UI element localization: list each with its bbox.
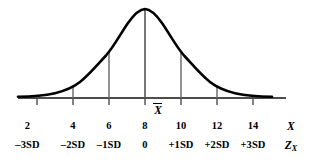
x-label-10: 10	[163, 120, 199, 132]
z-axis-name: ZX	[271, 139, 311, 153]
x-axis-name: X	[271, 120, 311, 132]
x-label-2: 2	[0, 120, 55, 132]
z-label-zero: 0	[127, 139, 163, 153]
z-score-label-row: –3SD –2SD –1SD 0 +1SD +2SD +3SD ZX	[0, 139, 316, 153]
z-label-pos1sd: +1SD	[163, 139, 199, 153]
sd-marker-group	[73, 9, 217, 98]
normal-distribution-figure: X 2 4 6 8 10 12 14 X –3SD –2SD –1SD 0 +1…	[0, 0, 316, 163]
x-label-14: 14	[235, 120, 271, 132]
mean-symbol-text: X	[154, 104, 162, 117]
x-label-6: 6	[91, 120, 127, 132]
z-axis-name-subscript: X	[292, 144, 297, 153]
z-label-pos3sd: +3SD	[235, 139, 271, 153]
x-label-12: 12	[199, 120, 235, 132]
z-label-neg2sd: –2SD	[55, 139, 91, 153]
z-label-neg1sd: –1SD	[91, 139, 127, 153]
x-value-label-row: 2 4 6 8 10 12 14 X	[0, 120, 316, 132]
x-label-8: 8	[127, 120, 163, 132]
z-label-pos2sd: +2SD	[199, 139, 235, 153]
x-label-4: 4	[55, 120, 91, 132]
z-label-neg3sd: –3SD	[0, 139, 55, 153]
z-axis-name-base: Z	[285, 139, 292, 151]
mean-symbol: X	[0, 104, 316, 117]
